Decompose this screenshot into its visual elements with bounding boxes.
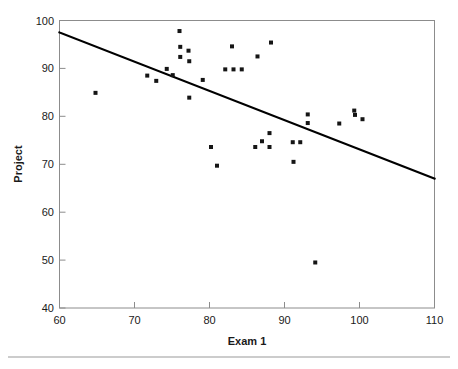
data-point [145, 74, 149, 78]
data-point [298, 140, 302, 144]
plot-frame [60, 21, 435, 309]
x-tick-label-100: 100 [350, 314, 368, 326]
data-point [352, 109, 356, 113]
data-point [187, 49, 191, 53]
data-point [94, 91, 98, 95]
x-tick-label-80: 80 [203, 314, 215, 326]
data-point [337, 122, 341, 126]
x-tick-label-110: 110 [426, 314, 444, 326]
data-point [306, 112, 310, 116]
y-tick-label-90: 90 [42, 62, 54, 74]
x-axis-ticks [60, 302, 435, 308]
x-axis-title: Exam 1 [228, 335, 267, 347]
y-tick-labels: 100 90 80 70 60 50 40 [36, 15, 54, 315]
data-point [260, 139, 264, 143]
data-point [201, 78, 205, 82]
data-point [313, 260, 317, 264]
data-point [209, 145, 213, 149]
data-point [292, 160, 296, 164]
y-tick-label-60: 60 [42, 206, 54, 218]
data-point [361, 117, 365, 121]
data-point [240, 67, 244, 71]
y-tick-label-100: 100 [36, 15, 54, 27]
data-point [268, 131, 272, 135]
data-point [178, 55, 182, 59]
y-tick-label-40: 40 [42, 302, 54, 314]
y-tick-label-50: 50 [42, 254, 54, 266]
y-tick-label-80: 80 [42, 110, 54, 122]
data-point [165, 67, 169, 71]
x-tick-labels: 60 70 80 90 100 110 [53, 314, 443, 326]
plot-svg: 100 90 80 70 60 50 40 60 70 80 90 100 11… [0, 0, 458, 369]
x-tick-label-70: 70 [128, 314, 140, 326]
data-point [232, 67, 236, 71]
data-point [223, 67, 227, 71]
data-point [178, 45, 182, 49]
data-point [291, 140, 295, 144]
regression-line [60, 32, 435, 178]
data-point [306, 121, 310, 125]
data-point [268, 145, 272, 149]
data-point [154, 79, 158, 83]
data-point [187, 59, 191, 63]
y-axis-ticks [60, 21, 66, 309]
y-axis-title: Project [12, 145, 24, 183]
scatter-plot-figure: 100 90 80 70 60 50 40 60 70 80 90 100 11… [0, 0, 458, 369]
data-point [178, 29, 182, 33]
data-point [230, 44, 234, 48]
data-point [215, 164, 219, 168]
data-point [187, 96, 191, 100]
x-tick-label-60: 60 [53, 314, 65, 326]
data-point [256, 54, 260, 58]
data-point [253, 145, 257, 149]
x-tick-label-90: 90 [278, 314, 290, 326]
data-point [353, 113, 357, 117]
data-point [171, 73, 175, 77]
data-point [269, 41, 273, 45]
data-point-group [94, 29, 365, 264]
y-tick-label-70: 70 [42, 158, 54, 170]
